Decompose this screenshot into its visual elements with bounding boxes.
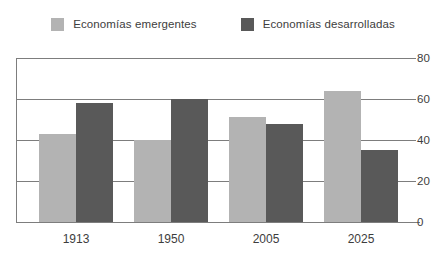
legend-label-emerging: Economías emergentes	[73, 18, 196, 30]
x-category-label: 1913	[39, 232, 113, 246]
y-tick-label: 20	[417, 175, 430, 187]
y-tick-mark	[408, 222, 416, 223]
y-tick-label: 80	[417, 52, 430, 64]
y-tick-mark	[408, 99, 416, 100]
x-category-label: 2025	[324, 232, 398, 246]
bar-group	[39, 58, 113, 222]
y-tick-label: 40	[417, 134, 430, 146]
y-tick-label: 60	[417, 93, 430, 105]
plot-area	[16, 58, 408, 222]
legend-label-developed: Economías desarrolladas	[263, 18, 395, 30]
bar	[324, 91, 361, 222]
x-category-label: 2005	[229, 232, 303, 246]
legend-swatch-icon-emerging	[51, 18, 64, 31]
chart-legend: Economías emergentes Economías desarroll…	[0, 12, 446, 36]
bar-group	[134, 58, 208, 222]
y-tick-mark	[408, 140, 416, 141]
y-tick-label: 0	[417, 216, 423, 228]
bar-chart: Economías emergentes Economías desarroll…	[0, 0, 446, 262]
legend-swatch-icon-developed	[241, 18, 254, 31]
bar	[39, 134, 76, 222]
bar	[76, 103, 113, 222]
bar	[171, 99, 208, 222]
legend-item-developed: Economías desarrolladas	[241, 18, 395, 31]
bar	[134, 140, 171, 222]
bar-series-container	[16, 58, 408, 222]
y-tick-mark	[408, 58, 416, 59]
bar-group	[229, 58, 303, 222]
legend-item-emerging: Economías emergentes	[51, 18, 196, 31]
x-category-label: 1950	[134, 232, 208, 246]
y-tick-mark	[408, 181, 416, 182]
bar	[229, 117, 266, 222]
bar-group	[324, 58, 398, 222]
bar	[266, 124, 303, 222]
bar	[361, 150, 398, 222]
x-axis-line	[16, 222, 420, 223]
